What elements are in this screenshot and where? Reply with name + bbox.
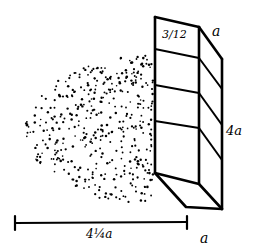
label-bottom-depth: a: [200, 230, 208, 246]
label-top-depth: a: [212, 23, 220, 39]
shadow-stipple: [25, 55, 154, 203]
label-shadow-length: 4¼a: [85, 227, 112, 241]
label-height: 4a: [225, 123, 242, 138]
label-top-section: 3/12: [162, 28, 187, 41]
box-prism: [155, 17, 222, 209]
diagram-canvas: 3/12 a 4a a 4¼a: [0, 0, 263, 248]
